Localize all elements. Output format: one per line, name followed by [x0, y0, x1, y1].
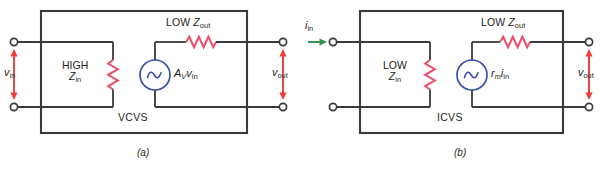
- panel-b-zin-label: LOW Zin: [383, 60, 407, 82]
- panel-a-zout-resistor-symbol: [186, 37, 216, 47]
- panel-b-iin-label: iin: [305, 20, 313, 32]
- panel-a-caption: (a): [137, 148, 149, 159]
- panel-a-zin-resistor-symbol: [108, 60, 118, 90]
- panel-a-output-terminal-top: [279, 38, 286, 45]
- panel-a-block-label: VCVS: [118, 112, 148, 123]
- panel-a-vin-arrow-head-down: [10, 93, 17, 101]
- panel-b-iin-arrow-head: [320, 39, 328, 46]
- panel-b-block-label: ICVS: [437, 112, 463, 123]
- panel-a-group: [10, 11, 286, 133]
- panel-a-zout-label: LOW Zout: [166, 17, 210, 28]
- panel-a-vout-label: vout: [272, 67, 288, 79]
- panel-b-zin-resistor-symbol: [425, 60, 435, 90]
- panel-b-vout-arrow-head-up: [585, 49, 592, 57]
- circuit-figure: vin HIGH Zin LOW Zout AVvin VCVS vout (a…: [0, 0, 604, 169]
- panel-a-vout-arrow-head-down: [279, 93, 286, 101]
- panel-b-input-terminal-bottom: [329, 103, 336, 110]
- panel-a-input-terminal-bottom: [10, 103, 17, 110]
- panel-a-zin-label-line2: Zin: [62, 71, 88, 82]
- panel-b-output-terminal-bottom: [585, 103, 592, 110]
- panel-a-vin-label: vin: [4, 67, 15, 79]
- panel-b-source-label: rmiin: [491, 68, 509, 80]
- panel-b-caption: (b): [454, 148, 466, 159]
- panel-a-zin-label: HIGH Zin: [62, 60, 88, 82]
- panel-b-output-terminal-top: [585, 38, 592, 45]
- panel-a-vin-arrow-head-up: [10, 49, 17, 57]
- panel-a-source-label: AVvin: [174, 68, 198, 80]
- panel-b-zout-label: LOW Zout: [481, 17, 525, 28]
- panel-a-input-terminal-top: [10, 38, 17, 45]
- panel-b-vout-arrow-head-down: [585, 93, 592, 101]
- panel-a-output-terminal-bottom: [279, 103, 286, 110]
- panel-b-zout-resistor-symbol: [500, 37, 530, 47]
- panel-b-input-terminal-top: [329, 38, 336, 45]
- panel-a-vout-arrow-head-up: [279, 49, 286, 57]
- panel-b-vout-label: vout: [578, 67, 594, 79]
- panel-b-zin-label-line2: Zin: [383, 71, 407, 82]
